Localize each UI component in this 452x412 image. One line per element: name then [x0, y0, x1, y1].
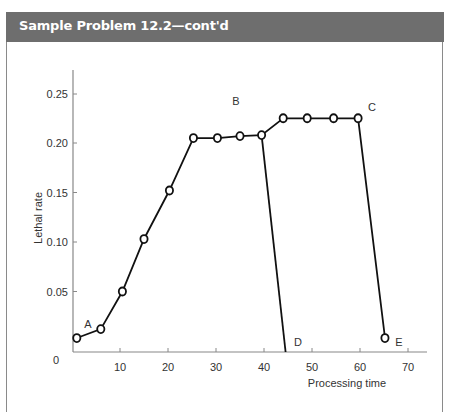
point-label-c: C [368, 101, 376, 113]
data-point-marker [140, 235, 147, 243]
data-point-marker [280, 114, 287, 122]
x-tick-label: 50 [306, 361, 318, 373]
point-label-a: A [84, 318, 92, 330]
data-point-marker [166, 187, 173, 195]
x-tick-label: 30 [210, 361, 222, 373]
y-tick-label: 0.05 [47, 286, 68, 298]
data-point-marker [330, 114, 337, 122]
y-tick-label: 0.15 [47, 187, 68, 199]
point-label-b: B [232, 95, 239, 107]
data-point-marker [190, 134, 197, 142]
data-point-marker [119, 288, 126, 296]
drop-line-to-d [262, 135, 286, 352]
data-point-marker [73, 334, 80, 342]
x-tick-label: 10 [114, 361, 126, 373]
series-line [77, 118, 385, 338]
point-label-d: D [294, 336, 302, 348]
data-point-marker [236, 132, 243, 140]
data-point-marker [97, 325, 104, 333]
y-tick-label: 0.25 [47, 88, 68, 100]
y-tick-label: 0.10 [47, 236, 68, 248]
y-axis-title: Lethal rate [32, 192, 44, 244]
data-point-marker [304, 114, 311, 122]
x-axis-title: Processing time [308, 377, 386, 389]
y-tick-label: 0 [53, 354, 59, 366]
data-point-marker [381, 334, 388, 342]
data-point-marker [214, 134, 221, 142]
y-tick-label: 0.20 [47, 137, 68, 149]
data-point-marker [354, 114, 361, 122]
point-label-e: E [395, 336, 402, 348]
x-tick-label: 40 [258, 361, 270, 373]
x-tick-label: 70 [402, 361, 414, 373]
x-tick-label: 20 [162, 361, 174, 373]
x-tick-label: 60 [354, 361, 366, 373]
data-point-marker [258, 131, 265, 139]
